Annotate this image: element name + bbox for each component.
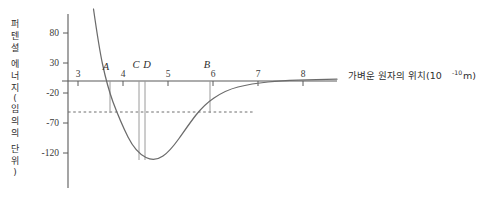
y-axis-title-char-5: 지 (11, 83, 19, 93)
y-axis-title-char-6: ( (13, 93, 17, 103)
potential-energy-curve (94, 9, 338, 159)
y-axis-title-char-12: ) (13, 167, 17, 177)
y-tick-label-1: 30 (50, 58, 60, 68)
marker-label-A: A (102, 61, 110, 72)
y-axis-title-char-10: 단 (11, 144, 19, 154)
y-tick-label-0: 80 (50, 28, 60, 38)
x-tick-label-4: 7 (256, 69, 261, 79)
x-tick-label-3: 6 (211, 69, 216, 79)
x-tick-label-0: 3 (76, 69, 81, 79)
y-axis-title-char-7: 임 (11, 103, 19, 114)
y-axis-title-char-4: 너 (11, 71, 19, 81)
y-axis-title-char-2: 셜 (11, 43, 19, 53)
y-axis-title-char-9: 의 (11, 128, 19, 138)
y-tick-label-4: -120 (42, 148, 60, 158)
marker-label-D: D (142, 59, 151, 70)
y-axis-title-char-8: 의 (11, 116, 19, 126)
x-axis-title-base: 가벼운 원자의 위치(10 (348, 70, 442, 81)
x-tick-label-2: 5 (166, 69, 171, 79)
y-axis-title-char-0: 퍼 (11, 19, 19, 29)
y-tick-label-2: -20 (46, 88, 59, 98)
y-axis-title: 퍼 텐 셜 에 너 지 ( 임 의 의 단 위 ) (11, 19, 19, 177)
graph-canvas: 80 30 -20 -70 -120 퍼 텐 셜 에 너 지 ( 임 의 의 단… (0, 0, 500, 207)
x-tick-label-5: 8 (301, 69, 306, 79)
y-axis-title-char-1: 텐 (11, 31, 19, 41)
x-axis-title-tail: m) (463, 70, 476, 81)
marker-label-B: B (204, 59, 211, 70)
x-axis-title-exponent: -10 (452, 69, 462, 76)
y-axis-title-char-11: 위 (11, 156, 19, 166)
x-axis-title: 가벼운 원자의 위치(10 -10 m) (348, 69, 476, 81)
y-tick-label-3: -70 (46, 118, 59, 128)
y-axis-ticks (63, 33, 68, 153)
potential-energy-graph-figure: 80 30 -20 -70 -120 퍼 텐 셜 에 너 지 ( 임 의 의 단… (0, 0, 500, 207)
x-tick-label-1: 4 (121, 69, 126, 79)
y-axis-title-char-3: 에 (11, 59, 19, 69)
marker-label-C: C (132, 59, 140, 70)
